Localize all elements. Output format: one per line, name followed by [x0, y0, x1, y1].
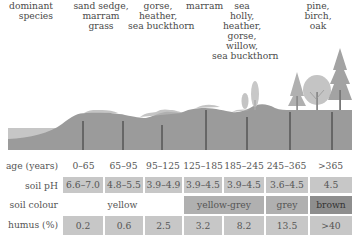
colour-cell-brown: brown — [310, 196, 352, 214]
age-cell: >365 — [309, 160, 352, 171]
colour-cell-grey: grey — [266, 196, 308, 214]
row-label-colour: soil colour — [0, 199, 58, 210]
ground-profile — [8, 104, 352, 150]
row-label-humus: humus (%) — [0, 219, 58, 230]
age-cell: 0–65 — [63, 160, 104, 171]
colour-cell-yellow: yellow — [63, 196, 182, 214]
ph-cell: 3.9–4.5 — [224, 177, 264, 193]
dune-cross-section — [0, 0, 357, 160]
age-cell: 185–245 — [223, 160, 265, 171]
age-cell: 125–185 — [183, 160, 223, 171]
birch-tree-icon — [303, 75, 331, 110]
ph-cell: 3.6–4.5 — [266, 177, 308, 193]
row-label-age: age (years) — [0, 160, 58, 171]
age-cell: 245–365 — [265, 160, 308, 171]
shrub-icon — [242, 93, 249, 109]
ph-cell: 4.5 — [310, 177, 352, 193]
humus-cell: 0.2 — [63, 216, 103, 235]
oak-pine-tall-tree-icon — [328, 48, 352, 110]
ph-cell: 6.6–7.0 — [63, 177, 103, 193]
humus-cell: 2.5 — [145, 216, 182, 235]
humus-cell: 0.6 — [105, 216, 143, 235]
humus-cell: 13.5 — [266, 216, 308, 235]
ph-cell: 3.9–4.5 — [184, 177, 222, 193]
humus-cell: >40 — [310, 216, 352, 235]
age-cell: 95–125 — [143, 160, 183, 171]
humus-cell: 8.2 — [224, 216, 264, 235]
ph-cell: 4.8–5.5 — [105, 177, 143, 193]
colour-cell-yellow-grey: yellow-grey — [184, 196, 264, 214]
humus-cell: 3.2 — [184, 216, 222, 235]
ph-cell: 3.9–4.9 — [145, 177, 182, 193]
row-label-ph: soil pH — [0, 180, 58, 191]
age-cell: 65–95 — [104, 160, 143, 171]
